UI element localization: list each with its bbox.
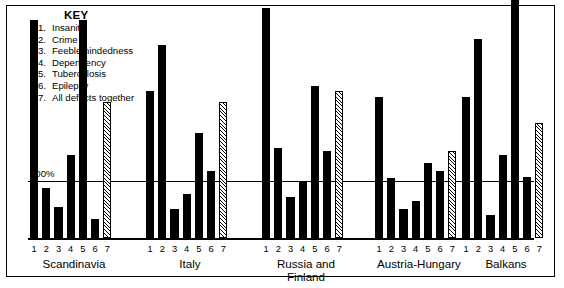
tick-label: 1 xyxy=(375,244,383,254)
bar xyxy=(462,97,470,238)
bar xyxy=(399,209,407,238)
bar xyxy=(335,91,343,238)
tick-label: 6 xyxy=(91,244,99,254)
bars-container xyxy=(262,13,350,238)
bar xyxy=(511,0,519,238)
tick-label: 3 xyxy=(170,244,178,254)
bar xyxy=(286,197,294,238)
tick-label: 7 xyxy=(219,244,227,254)
tick-label: 2 xyxy=(474,244,482,254)
bar xyxy=(436,171,444,238)
bars-container xyxy=(462,13,550,238)
tick-label: 5 xyxy=(195,244,203,254)
tick-label: 4 xyxy=(412,244,420,254)
bar xyxy=(262,8,270,238)
group-name-label: Austria-Hungary xyxy=(375,257,463,270)
tick-label: 2 xyxy=(42,244,50,254)
tick-label: 6 xyxy=(323,244,331,254)
bar xyxy=(323,151,331,239)
tick-label: 7 xyxy=(448,244,456,254)
tick-label: 1 xyxy=(262,244,270,254)
bar xyxy=(170,209,178,238)
bar xyxy=(311,86,319,238)
bar-group: 1234567Italy xyxy=(146,0,234,288)
tick-label: 5 xyxy=(79,244,87,254)
tick-label: 2 xyxy=(158,244,166,254)
chart-figure: KEY 1.Insanity2.Crime3.Feeblemindedness4… xyxy=(0,0,564,288)
bar xyxy=(30,20,38,238)
tick-label: 6 xyxy=(523,244,531,254)
tick-label: 6 xyxy=(207,244,215,254)
bar-group: 1234567Balkans xyxy=(462,0,550,288)
bar xyxy=(183,194,191,238)
tick-label: 3 xyxy=(54,244,62,254)
bars-container xyxy=(30,13,118,238)
bar xyxy=(499,155,507,239)
bar xyxy=(54,207,62,239)
bar xyxy=(91,219,99,238)
tick-label: 4 xyxy=(183,244,191,254)
tick-label: 5 xyxy=(424,244,432,254)
bar xyxy=(299,182,307,238)
bar xyxy=(42,188,50,239)
bars-container xyxy=(146,13,234,238)
bar xyxy=(219,102,227,238)
tick-label: 1 xyxy=(462,244,470,254)
plot-area: 100% 1234567Scandinavia1234567Italy12345… xyxy=(0,0,564,288)
bar xyxy=(207,171,215,238)
bar xyxy=(103,102,111,238)
bar xyxy=(146,91,154,238)
tick-label: 2 xyxy=(274,244,282,254)
bar-group: 1234567Scandinavia xyxy=(30,0,118,288)
bar xyxy=(79,20,87,238)
bar xyxy=(412,201,420,238)
tick-label: 2 xyxy=(387,244,395,254)
tick-label: 3 xyxy=(399,244,407,254)
tick-label: 7 xyxy=(103,244,111,254)
tick-label: 3 xyxy=(486,244,494,254)
bar xyxy=(448,151,456,239)
tick-label: 7 xyxy=(335,244,343,254)
bar xyxy=(535,123,543,238)
bar xyxy=(67,155,75,239)
tick-label: 4 xyxy=(67,244,75,254)
tick-label: 5 xyxy=(511,244,519,254)
group-name-label: Scandinavia xyxy=(30,257,118,270)
bar xyxy=(387,178,395,238)
tick-labels: 1234567 xyxy=(262,244,350,258)
tick-labels: 1234567 xyxy=(375,244,463,258)
tick-labels: 1234567 xyxy=(146,244,234,258)
tick-label: 5 xyxy=(311,244,319,254)
tick-label: 1 xyxy=(146,244,154,254)
bar xyxy=(486,215,494,238)
bar xyxy=(424,163,432,238)
tick-label: 1 xyxy=(30,244,38,254)
tick-label: 4 xyxy=(299,244,307,254)
bar xyxy=(274,148,282,238)
bar xyxy=(158,45,166,238)
tick-labels: 1234567 xyxy=(462,244,550,258)
bar-group: 1234567Russia and Finland xyxy=(262,0,350,288)
tick-label: 7 xyxy=(535,244,543,254)
group-name-label: Italy xyxy=(146,257,234,270)
bar xyxy=(195,133,203,238)
tick-label: 6 xyxy=(436,244,444,254)
group-name-label: Balkans xyxy=(462,257,550,270)
group-name-label: Russia and Finland xyxy=(262,257,350,283)
bar xyxy=(474,39,482,238)
bar xyxy=(523,177,531,239)
tick-labels: 1234567 xyxy=(30,244,118,258)
tick-label: 3 xyxy=(286,244,294,254)
tick-label: 4 xyxy=(499,244,507,254)
bar xyxy=(375,97,383,238)
bar-group: 1234567Austria-Hungary xyxy=(375,0,463,288)
bars-container xyxy=(375,13,463,238)
